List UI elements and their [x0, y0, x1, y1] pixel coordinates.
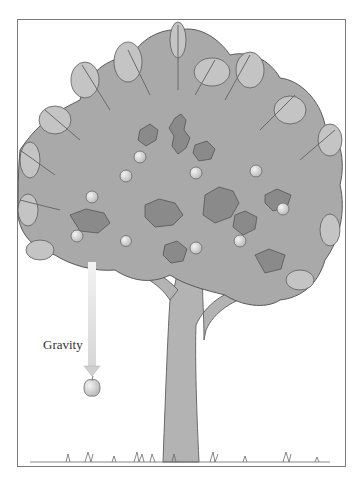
tree-canopy: [18, 22, 342, 305]
falling-apple: [84, 376, 100, 396]
apple: [234, 235, 246, 247]
apple: [121, 236, 132, 247]
apple: [190, 242, 202, 254]
apple: [86, 191, 98, 203]
apple: [134, 151, 146, 163]
apple: [250, 165, 262, 177]
apple: [277, 203, 289, 215]
apple: [71, 230, 83, 242]
gravity-arrow: [84, 262, 100, 376]
apple: [120, 170, 132, 182]
gravity-label: Gravity: [43, 337, 83, 353]
apple: [190, 167, 202, 179]
apple-tree-illustration: [0, 0, 362, 481]
